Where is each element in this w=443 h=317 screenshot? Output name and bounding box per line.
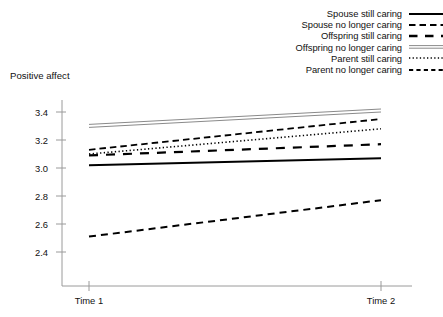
- y-tick-label-2-4: 2.4: [18, 247, 48, 258]
- y-tick-label-3-0: 3.0: [18, 163, 48, 174]
- plot-area: 3.4 3.2 3.0 2.8 2.6 2.4 Time 1 Time 2: [0, 0, 443, 317]
- chart-svg: [0, 0, 443, 317]
- chart-root: Spouse still caring Spouse no longer car…: [0, 0, 443, 317]
- y-tick-label-2-6: 2.6: [18, 219, 48, 230]
- x-tick-label-time-1: Time 1: [59, 295, 119, 306]
- x-tick-label-time-2: Time 2: [351, 295, 411, 306]
- y-tick-label-3-4: 3.4: [18, 107, 48, 118]
- series-line-parent-still-caring: [89, 129, 381, 154]
- data-series-layer: [89, 109, 381, 237]
- series-line-spouse-no-longer-caring: [89, 119, 381, 150]
- series-line-offspring-no-longer-caring: [89, 109, 381, 127]
- y-tick-label-2-8: 2.8: [18, 191, 48, 202]
- y-tick-marks: [56, 112, 66, 252]
- y-tick-label-3-2: 3.2: [18, 135, 48, 146]
- series-line-spouse-still-caring: [89, 158, 381, 165]
- series-line-parent-no-longer-caring: [89, 200, 381, 236]
